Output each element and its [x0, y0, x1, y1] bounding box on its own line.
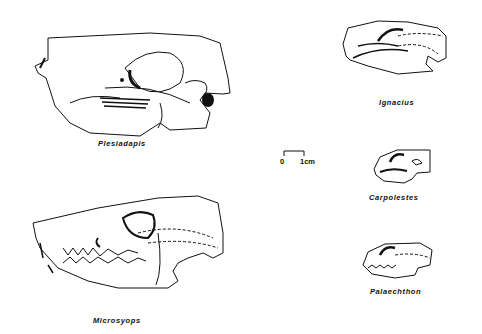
skull-microsyops-drawing — [28, 193, 228, 293]
scale-bar-zero-label: 0 — [280, 157, 284, 166]
label-ignacius: Ignacius — [379, 98, 414, 107]
skull-plesiadapis-drawing — [30, 28, 230, 133]
label-microsyops: Microsyops — [93, 316, 141, 325]
label-carpolestes: Carpolestes — [369, 193, 419, 202]
label-plesiadapis: Plesiadapis — [98, 139, 146, 148]
skull-ignacius-drawing — [338, 16, 458, 76]
skull-carpolestes-drawing — [372, 147, 432, 185]
skull-palaechthon-drawing — [360, 240, 435, 280]
scale-bar — [283, 150, 305, 156]
scale-bar-cm-label: 1cm — [300, 157, 315, 166]
label-palaechthon: Palaechthon — [370, 287, 421, 296]
